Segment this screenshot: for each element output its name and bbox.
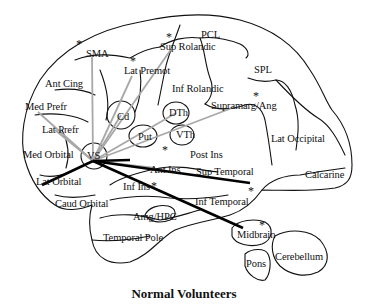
region-label-sma: SMA [86, 49, 108, 60]
significance-asterisk-icon: * [166, 31, 172, 43]
region-label-dth: DTh [169, 108, 188, 119]
region-label-inf-temporal: Inf Temporal [195, 197, 249, 208]
significance-asterisk-icon: * [253, 90, 259, 102]
region-label-post-ins: Post Ins [190, 150, 223, 161]
region-label-cerebellum: Cerebellum [275, 252, 323, 263]
region-label-ant-ins: Ant Ins [150, 165, 181, 176]
significance-asterisk-icon: * [259, 219, 265, 231]
region-label-lat-orbital: Lat Orbital [36, 177, 81, 188]
region-label-med-orbital: Med Orbital [23, 150, 74, 161]
region-label-pons: Pons [246, 259, 266, 270]
region-label-sup-temporal: Sup Temporal [196, 167, 254, 178]
region-label-put: Put [138, 132, 152, 143]
region-label-inf-rolandic: Inf Rolandic [172, 84, 224, 95]
figure-caption: Normal Volunteers [0, 286, 368, 302]
significance-asterisk-icon: * [162, 144, 168, 156]
region-label-vth: VTh [176, 130, 195, 141]
region-label-cd: Cd [117, 112, 129, 123]
region-label-lat-prefr: Lat Prefr [42, 125, 79, 136]
region-label-spl: SPL [254, 65, 272, 76]
region-label-caud-orbital: Caud Orbital [55, 199, 108, 210]
region-label-amg-hpc: Amg/HPC [133, 212, 177, 223]
region-label-inf-ins: Inf Ins [123, 182, 150, 193]
brain-connectivity-figure: SMA*Sup Rolandic*PCLLat Premot*Ant CingS… [0, 0, 368, 308]
region-label-temporal-pole: Temporal Pole [103, 233, 163, 244]
significance-asterisk-icon: * [130, 55, 136, 67]
region-label-med-prefr: Med Prefr [25, 102, 67, 113]
significance-asterisk-icon: * [151, 180, 157, 192]
region-label-ant-cing: Ant Cing [45, 79, 83, 90]
region-label-lat-occipital: Lat Occipital [271, 134, 325, 145]
region-label-supramarg-ang: Supramarg/Ang [211, 101, 277, 112]
significance-asterisk-icon: * [76, 38, 82, 50]
region-label-pcl: PCL [201, 30, 220, 41]
region-label-calcarine: Calcarine [305, 170, 344, 181]
connection-line-sma [92, 56, 93, 161]
region-label-vs: VS [87, 151, 100, 162]
region-label-midbrain: Midbrain [237, 230, 275, 241]
